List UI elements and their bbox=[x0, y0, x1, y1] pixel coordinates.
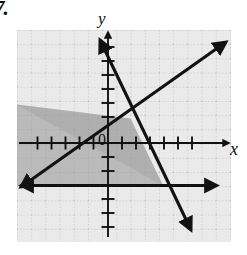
x-axis-label: x bbox=[230, 140, 238, 158]
falling-boundary-line bbox=[100, 40, 191, 230]
rising-boundary-line bbox=[21, 42, 226, 187]
x-axis bbox=[19, 137, 229, 150]
axes-and-lines bbox=[17, 30, 231, 242]
y-axis-label: y bbox=[98, 10, 106, 27]
origin-label: 0 bbox=[98, 132, 106, 148]
problem-number: 7. bbox=[0, 0, 8, 19]
graph-figure: 7. bbox=[0, 0, 247, 255]
plot-area bbox=[17, 30, 231, 242]
